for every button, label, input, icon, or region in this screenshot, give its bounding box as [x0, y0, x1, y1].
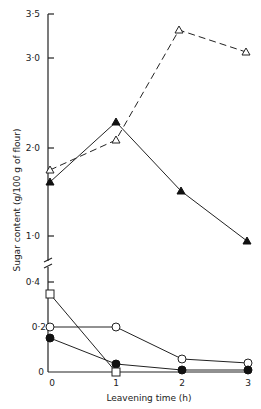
x-tick-labels: 0 1 2 3	[49, 378, 251, 388]
x-tick-1: 1	[113, 378, 119, 388]
y-tick-3.0: 3·0	[26, 53, 41, 63]
open-circle-line	[50, 327, 248, 363]
y-tick-2.0: 2·0	[26, 143, 41, 153]
open-triangle-dashed-line	[50, 30, 246, 170]
x-tick-0: 0	[49, 378, 55, 388]
series-lines	[50, 30, 248, 372]
y-tick-0.4: 0·4	[26, 277, 41, 287]
y-tick-1.0: 1·0	[26, 231, 41, 241]
y-tick-0.2: 0·2	[32, 322, 46, 332]
y-tick-0: 0	[38, 367, 44, 377]
filled-circle-markers	[46, 334, 252, 374]
sugar-content-chart: 3·5 3·0 2·0 1·0 0·4 0·2 0 0 1 2 3 Leaven…	[0, 0, 261, 409]
filled-triangle-line	[50, 122, 247, 241]
open-triangle-markers	[46, 26, 250, 173]
y-tick-labels: 3·5 3·0 2·0 1·0 0·4 0·2 0	[26, 9, 46, 377]
y-axis-label: Sugar content (g/100 g of flour)	[12, 128, 22, 271]
x-tick-2: 2	[179, 378, 185, 388]
filled-triangle-markers	[46, 118, 251, 244]
x-axis-label: Leavening time (h)	[106, 393, 191, 403]
open-circle-markers	[46, 323, 252, 367]
open-square-line	[50, 294, 116, 372]
axes	[44, 14, 250, 372]
x-tick-3: 3	[245, 378, 251, 388]
y-tick-3.5: 3·5	[26, 9, 40, 19]
